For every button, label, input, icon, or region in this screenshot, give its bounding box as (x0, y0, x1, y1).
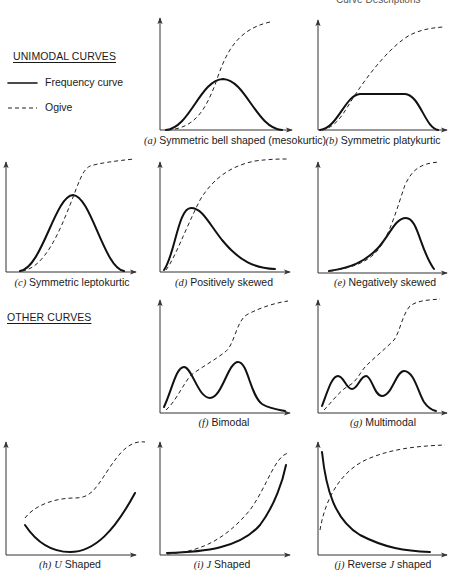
caption-b: (b) Symmetric platykurtic (326, 134, 441, 146)
caption-label: Shaped (214, 558, 250, 570)
panel-h-u-shaped (6, 442, 145, 555)
caption-label: Positively skewed (190, 276, 273, 288)
caption-label: shaped (397, 558, 431, 570)
caption-label: Symmetric platykurtic (341, 134, 441, 146)
caption-c: (c) Symmetric leptokurtic (15, 276, 130, 288)
caption-label: Symmetric leptokurtic (29, 276, 129, 288)
caption-pre: Reverse (347, 558, 386, 570)
caption-a: (a) Symmetric bell shaped (mesokurtic) (144, 134, 326, 146)
caption-tag: (g) (350, 417, 362, 428)
caption-label: Symmetric bell shaped (mesokurtic) (159, 134, 326, 146)
caption-tag: (a) (144, 135, 156, 146)
caption-label: Multimodal (365, 416, 416, 428)
caption-letter: U (54, 559, 62, 570)
panel-a-bell-mesokurtic (160, 18, 292, 130)
caption-tag: (d) (175, 277, 187, 288)
caption-tag: (i) (194, 559, 204, 570)
panel-d-positively-skewed (160, 159, 290, 272)
caption-label: Negatively skewed (349, 276, 437, 288)
caption-letter: J (389, 559, 394, 570)
caption-tag: (h) (39, 559, 51, 570)
panel-c-leptokurtic (6, 159, 136, 272)
caption-d: (d) Positively skewed (175, 276, 273, 288)
caption-letter: J (207, 559, 212, 570)
caption-h: (h) U Shaped (39, 558, 101, 570)
caption-g: (g) Multimodal (350, 416, 416, 428)
caption-tag: (j) (335, 559, 345, 570)
caption-tag: (f) (199, 417, 209, 428)
panel-e-negatively-skewed (318, 162, 447, 273)
panel-g-multimodal (318, 299, 447, 413)
panel-i-j-shaped (160, 442, 290, 555)
caption-tag: (e) (334, 277, 346, 288)
caption-label: Shaped (65, 558, 101, 570)
caption-label: Bimodal (211, 416, 249, 428)
panel-j-reverse-j-shaped (318, 442, 447, 555)
caption-e: (e) Negatively skewed (334, 276, 436, 288)
caption-tag: (c) (15, 277, 27, 288)
caption-f: (f) Bimodal (199, 416, 250, 428)
caption-tag: (b) (326, 135, 338, 146)
panel-f-bimodal (160, 300, 290, 413)
caption-j: (j) Reverse J shaped (335, 558, 432, 570)
panel-b-platykurtic (318, 20, 447, 130)
caption-i: (i) J Shaped (194, 558, 251, 570)
